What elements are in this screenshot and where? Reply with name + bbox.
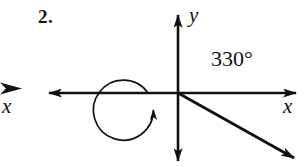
angle-arc <box>93 80 153 140</box>
x-axis-label-right: x <box>283 96 292 117</box>
problem-number-label: 2. <box>38 7 53 26</box>
angle-measure-label: 330° <box>211 48 253 70</box>
terminal-side-ray <box>178 93 294 158</box>
y-axis-label: y <box>189 5 198 26</box>
angle-diagram-figure: 2. 330° y x x <box>0 0 305 167</box>
neighbor-figure-arrow-fragment <box>0 83 22 95</box>
x-axis-label-left: x <box>2 96 11 117</box>
